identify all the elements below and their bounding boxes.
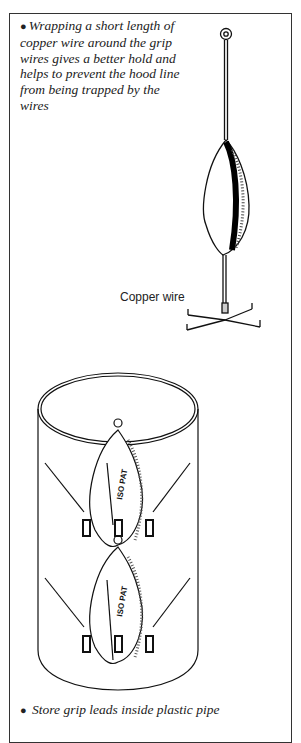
bullet: ●	[20, 704, 27, 716]
caption-text-bottom: Store grip leads inside plastic pipe	[32, 702, 219, 717]
caption-store-grip: ● Store grip leads inside plastic pipe	[20, 702, 219, 718]
stored-grips-drawing	[45, 419, 190, 663]
copper-wire-label: Copper wire	[120, 290, 185, 304]
single-grip-drawing	[187, 29, 260, 331]
